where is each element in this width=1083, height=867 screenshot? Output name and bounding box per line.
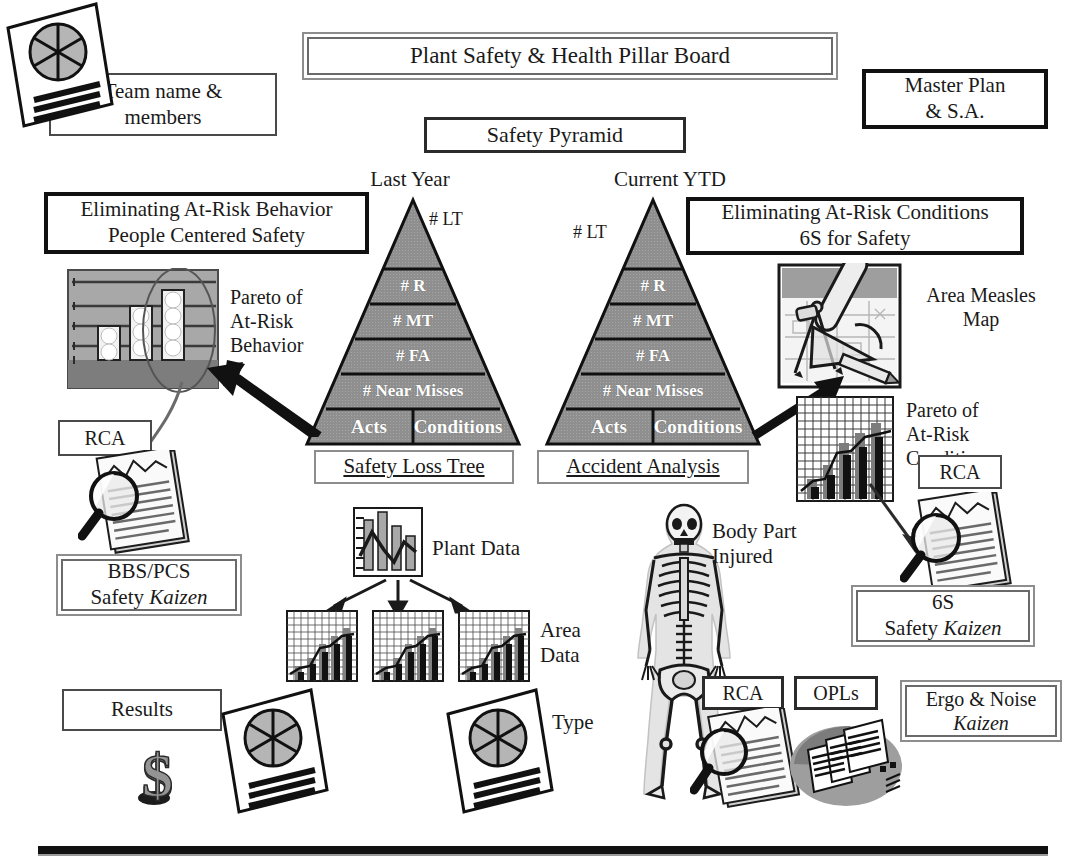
pyramid-base-conditions-right: Conditions xyxy=(653,416,743,438)
left-banner-line1: Eliminating At-Risk Behavior xyxy=(81,197,333,223)
body-part-l1: Body Part xyxy=(712,519,872,544)
opls-box: OPLs xyxy=(794,676,878,710)
ergo-line1: Ergo & Noise xyxy=(926,687,1037,711)
body-part-l2: Injured xyxy=(712,544,872,569)
rca-magnifier-document-right xyxy=(900,492,1028,597)
ergo-line2: Kaizen xyxy=(953,711,1009,735)
6s-safety-kaizen-frame: 6S Safety Kaizen xyxy=(851,585,1035,647)
pyramid-level-fa-right: # FA xyxy=(613,346,693,366)
pareto-conditions-l1: Pareto of xyxy=(906,398,1046,422)
type-pie-document-2 xyxy=(0,0,122,130)
pareto-conditions-l2: At-Risk xyxy=(906,422,1046,446)
type-label: Type xyxy=(552,710,632,735)
rca-magnifier-document-left xyxy=(78,450,206,555)
bbs-pcs-kaizen-word: Kaizen xyxy=(149,585,207,609)
rca-label-center: RCA xyxy=(722,681,763,705)
pyramid-apex-lt-right: # LT xyxy=(573,222,607,243)
accident-analysis-label: Accident Analysis xyxy=(566,454,719,480)
pareto-behavior-label: Pareto of At-Risk Behavior xyxy=(230,285,340,357)
pyramid-level-near-misses-right: # Near Misses xyxy=(573,381,733,401)
rca-label-left: RCA xyxy=(84,426,125,450)
pyramid-base-acts-right: Acts xyxy=(565,416,653,438)
master-plan-box: Master Plan & S.A. xyxy=(862,69,1048,129)
area-measles-map-label: Area Measles Map xyxy=(915,283,1047,331)
plant-data-label: Plant Data xyxy=(432,536,572,561)
bbs-pcs-safety-word: Safety xyxy=(90,585,149,609)
right-banner-line2: 6S for Safety xyxy=(800,226,911,252)
ergo-noise-kaizen-frame: Ergo & Noise Kaizen xyxy=(900,680,1062,742)
results-box: Results xyxy=(62,689,222,731)
area-data-l1: Area xyxy=(540,618,636,643)
bbs-pcs-line2: Safety Kaizen xyxy=(90,585,207,611)
measles-l2: Map xyxy=(915,307,1047,331)
type-pie-document-1 xyxy=(215,686,337,816)
arrow-pyramid-to-behavior-pareto xyxy=(193,352,323,437)
area-data-label: Area Data xyxy=(540,618,636,668)
bbs-pcs-line1: BBS/PCS xyxy=(108,559,191,585)
pareto-behavior-l1: Pareto of xyxy=(230,285,340,309)
master-plan-line2: & S.A. xyxy=(926,99,985,125)
plant-data-chart xyxy=(352,506,424,578)
area-data-chart-2 xyxy=(372,610,444,682)
sixs-line2: Safety Kaizen xyxy=(884,616,1001,642)
type-pie-document-3 xyxy=(440,686,562,816)
results-label: Results xyxy=(111,697,173,723)
safety-pyramid-current-ytd: # R # MT # FA # Near Misses Acts Conditi… xyxy=(543,196,763,448)
current-ytd-caption: Current YTD xyxy=(595,167,745,192)
measles-l1: Area Measles xyxy=(915,283,1047,307)
rca-box-center: RCA xyxy=(702,676,784,710)
body-part-injured-label: Body Part Injured xyxy=(712,519,872,569)
safety-loss-tree-frame: Safety Loss Tree xyxy=(314,450,514,484)
pyramid-apex-lt-left: # LT xyxy=(429,209,463,230)
pyramid-level-r-right: # R xyxy=(623,276,683,296)
team-name-line2: members xyxy=(125,105,202,131)
left-banner-line2: People Centered Safety xyxy=(108,223,305,249)
accident-analysis-frame: Accident Analysis xyxy=(537,450,749,484)
safety-pillar-board: Plant Safety & Health Pillar Board Team … xyxy=(0,0,1083,867)
pyramid-level-mt-left: # MT xyxy=(373,311,453,331)
svg-text:$: $ xyxy=(142,741,173,809)
pareto-behavior-l2: At-Risk xyxy=(230,309,340,333)
pyramid-level-fa-left: # FA xyxy=(373,346,453,366)
dollar-sign-icon: $ $ xyxy=(128,740,200,812)
pyramid-level-mt-right: # MT xyxy=(613,311,693,331)
sixs-kaizen-word: Kaizen xyxy=(943,616,1001,640)
pyramid-base-conditions-left: Conditions xyxy=(413,416,503,438)
opls-documents-clipart xyxy=(786,706,912,810)
last-year-caption: Last Year xyxy=(350,167,470,192)
pyramid-level-r-left: # R xyxy=(383,276,443,296)
safety-pyramid-heading-label: Safety Pyramid xyxy=(487,122,623,149)
pyramid-base-acts-left: Acts xyxy=(325,416,413,438)
bbs-pcs-safety-kaizen-frame: BBS/PCS Safety Kaizen xyxy=(56,554,242,616)
pyramid-level-near-misses-left: # Near Misses xyxy=(333,381,493,401)
area-data-chart-1 xyxy=(286,610,358,682)
sixs-line1: 6S xyxy=(932,590,954,616)
board-title-frame: Plant Safety & Health Pillar Board xyxy=(302,32,838,80)
sixs-safety-word: Safety xyxy=(884,616,943,640)
safety-pyramid-heading: Safety Pyramid xyxy=(424,117,686,153)
page-title: Plant Safety & Health Pillar Board xyxy=(307,37,833,75)
safety-loss-tree-label: Safety Loss Tree xyxy=(343,454,484,480)
area-data-l2: Data xyxy=(540,643,636,668)
bottom-rule xyxy=(38,846,1048,856)
master-plan-line1: Master Plan xyxy=(905,73,1006,99)
area-measles-map-clipart xyxy=(777,263,902,389)
opls-label: OPLs xyxy=(813,681,859,705)
area-data-chart-3 xyxy=(458,610,530,682)
